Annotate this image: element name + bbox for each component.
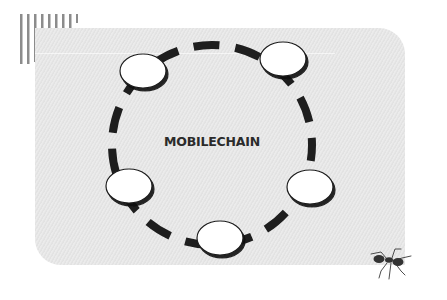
node-bottom[interactable] [197,221,243,255]
diagram-title: MOBILECHAIN [152,134,272,149]
node-top-left[interactable] [120,54,166,88]
ant-icon [365,245,425,285]
node-left[interactable] [106,169,152,203]
node-right[interactable] [287,170,333,204]
node-top-right[interactable] [260,42,306,76]
